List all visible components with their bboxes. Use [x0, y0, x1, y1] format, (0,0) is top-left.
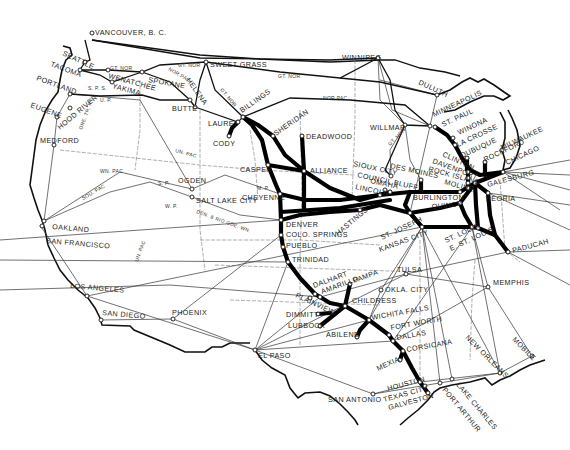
city-marker-el_paso [253, 348, 257, 352]
railroad-name-label: S. P. [158, 180, 170, 186]
city-marker-san_diego [99, 318, 103, 322]
city-label-corsicana: CORSICANA [406, 337, 453, 354]
city-marker-sweet_grass [204, 60, 208, 64]
city-marker-billings [241, 115, 245, 119]
railroad-name-label: GT. NOR [110, 65, 132, 71]
city-label-alliance: ALLIANCE [310, 166, 348, 175]
railroad-name-label: UN. PAC [133, 240, 146, 263]
city-label-butte: BUTTE [172, 104, 198, 113]
city-marker-wichita_falls [367, 318, 371, 322]
city-marker-alliance [302, 169, 306, 173]
city-marker-st_joseph [408, 211, 412, 215]
city-label-medford: MEDFORD [40, 136, 79, 145]
city-label-winnipeg: WINNIPEG [342, 53, 382, 62]
city-label-willmar: WILLMAR [370, 123, 406, 132]
city-marker-chicago [501, 170, 505, 174]
city-marker-denver [279, 218, 283, 222]
city-marker-helena [188, 98, 192, 102]
city-marker-vancouver [90, 31, 94, 35]
city-label-paducah: PADUCAH [511, 237, 549, 255]
railroad-name-label: M. P. [257, 185, 270, 191]
city-marker-st_paul [433, 125, 437, 129]
city-marker-los_angeles [85, 294, 89, 298]
city-label-mexia: MEXIA [375, 354, 401, 372]
city-label-peoria: PEORIA [486, 194, 516, 203]
railroad-name-label: U. P. [100, 97, 112, 103]
city-marker-fort_worth [387, 333, 391, 337]
railroad-name-label: GT. NOR [278, 73, 300, 79]
city-label-salt_lake_city: SALT LAKE CITY [196, 196, 258, 205]
city-label-ogden: OGDEN [178, 176, 206, 185]
city-label-pueblo: PUEBLO [286, 241, 318, 250]
city-marker-winona [451, 136, 455, 140]
city-marker-minneapolis [428, 124, 432, 128]
city-marker-paducah [506, 250, 510, 254]
city-label-phoenix: PHOENIX [172, 308, 207, 317]
city-marker-deadwood [300, 134, 304, 138]
city-label-san_antonio: SAN ANTONIO [328, 395, 381, 404]
city-marker-port_arthur [438, 381, 442, 385]
route-deadwood [302, 136, 304, 171]
city-marker-pueblo [281, 245, 285, 249]
railroad-name-label: W. P. [165, 203, 178, 209]
railroad-name-label: SOU. PAC [81, 183, 107, 201]
city-label-mobile: MOBILE [511, 335, 538, 362]
city-label-colo_springs: COLO. SPRINGS [286, 230, 348, 239]
city-label-trinidad: TRINIDAD [292, 255, 329, 264]
city-marker-childress [343, 304, 347, 308]
city-label-quincy: QUINCY [431, 199, 462, 211]
city-marker-dallas [391, 339, 395, 343]
city-label-vancouver: VANCOUVER, B. C. [95, 28, 166, 37]
city-marker-cody [227, 134, 231, 138]
city-marker-phoenix [171, 317, 175, 321]
city-marker-trinidad [286, 260, 290, 264]
city-marker-spokane [140, 70, 144, 74]
city-label-abilene: ABILENE [326, 330, 359, 339]
city-marker-san_francisco [40, 224, 44, 228]
city-label-dimmitt: DIMMITT [286, 310, 319, 319]
city-label-el_paso: EL PASO [258, 351, 291, 360]
railroad-name-label: WN. PAC [100, 168, 123, 174]
city-marker-dalhart [313, 292, 317, 296]
city-marker-oakland [42, 219, 46, 223]
city-marker-hood_river [68, 106, 72, 110]
city-label-duluth: DULUTH [417, 78, 449, 99]
city-labels: VANCOUVER, B. C.SEATTLETACOMAPORTLANDEUG… [29, 28, 549, 434]
railroad-name-label: UN. PAC [175, 147, 198, 159]
rio-grande [255, 350, 358, 425]
city-label-memphis: MEMPHIS [493, 278, 529, 287]
city-label-tulsa: TULSA [397, 265, 422, 274]
city-marker-memphis [486, 285, 490, 289]
city-label-cody: CODY [213, 139, 235, 148]
railroad-name-label: GT. NOR [178, 62, 200, 68]
city-marker-lake_charles [450, 377, 454, 381]
city-label-childress: CHILDRESS [352, 296, 397, 305]
city-marker-des_moines [419, 178, 423, 182]
railroad-name-label: S. P. S. [88, 85, 107, 91]
city-marker-colo_springs [279, 233, 283, 237]
city-label-billings: BILLINGS [238, 87, 272, 115]
city-marker-corsicana [401, 349, 405, 353]
city-marker-okla_city [379, 288, 383, 292]
city-label-okla_city: OKLA. CITY [385, 285, 429, 294]
city-marker-ogden [190, 187, 194, 191]
city-label-laurel: LAUREL [208, 119, 238, 128]
railroad-map: GT. NORGT. NORNOR PACGT. NORGT. NORNOR P… [0, 0, 570, 450]
city-label-sweet_grass: SWEET GRASS [210, 60, 267, 69]
railroad-name-label: DEN. & RIO GDE. WN. [196, 208, 252, 233]
city-label-lubbock: LUBBOCK [288, 321, 325, 330]
city-label-san_diego: SAN DIEGO [102, 308, 146, 321]
city-label-new_orleans: NEW ORLEANS [464, 333, 511, 380]
city-label-oakland: OAKLAND [52, 222, 90, 234]
city-marker-amarillo [318, 295, 322, 299]
city-label-casper: CASPER [240, 165, 272, 174]
city-label-los_angeles: LOS ANGELES [70, 281, 125, 295]
city-label-deadwood: DEADWOOD [306, 132, 352, 141]
city-marker-salt_lake_city [190, 195, 194, 199]
city-label-denver: DENVER [286, 220, 318, 229]
city-label-sheridan: SHERIDAN [272, 107, 310, 138]
city-label-eugene: EUGENE [29, 100, 63, 120]
railroad-name-label: NOR PAC [323, 95, 348, 101]
city-label-helena: HELENA [184, 76, 209, 107]
